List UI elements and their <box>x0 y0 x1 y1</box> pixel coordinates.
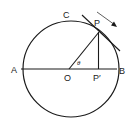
label-o: O <box>64 73 71 83</box>
diagram-canvas: A B C O P P′ θ <box>0 0 132 133</box>
label-p: P <box>94 18 100 28</box>
label-p-prime: P′ <box>93 73 101 83</box>
circle-diagram: A B C O P P′ θ <box>0 0 132 133</box>
label-b: B <box>119 66 125 76</box>
label-c: C <box>63 10 70 20</box>
label-theta: θ <box>77 60 81 66</box>
radius-op <box>69 32 99 69</box>
label-a: A <box>11 65 17 75</box>
